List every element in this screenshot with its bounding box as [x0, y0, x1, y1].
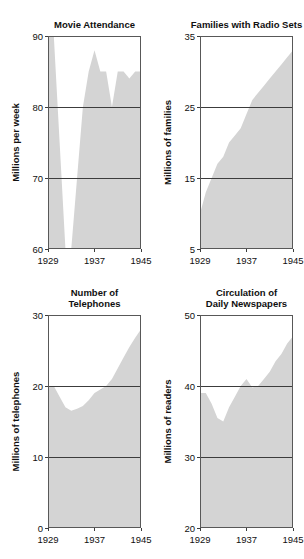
chart-panel-families-with-radio-sets: Families with Radio Sets 515253519291937…: [152, 0, 304, 280]
x-tick-label: 1929: [189, 534, 210, 545]
chart-svg-circulation-of-daily-newspapers: Circulation ofDaily Newspapers 203040501…: [152, 279, 304, 559]
y-axis-title: Millions of telephones: [10, 372, 21, 472]
chart-area-series: [200, 50, 293, 249]
y-tick-label: 15: [184, 173, 195, 184]
y-tick-label: 10: [32, 452, 43, 463]
chart-title-line: Number of: [71, 287, 119, 298]
chart-body-group: 20304050192919371945Millions of readers: [162, 310, 304, 546]
y-axis-title: Millions per week: [10, 102, 21, 181]
chart-title-group: Families with Radio Sets: [191, 19, 302, 30]
chart-title-group: Number ofTelephones: [68, 287, 120, 309]
y-tick-label: 35: [184, 31, 195, 42]
chart-title-line: Daily Newspapers: [206, 298, 287, 309]
chart-title-line: Movie Attendance: [54, 19, 135, 30]
chart-svg-movie-attendance: Movie Attendance 60708090192919371945Mil…: [0, 0, 152, 280]
y-tick-label: 30: [32, 310, 43, 321]
y-tick-label: 80: [32, 102, 43, 113]
chart-title-line: Families with Radio Sets: [191, 19, 302, 30]
chart-title-line: Telephones: [68, 298, 120, 309]
chart-svg-number-of-telephones: Number ofTelephones 0102030192919371945M…: [0, 279, 152, 559]
y-tick-label: 20: [32, 381, 43, 392]
y-tick-label: 60: [32, 244, 43, 255]
chart-area-series: [200, 336, 293, 528]
x-tick-label: 1929: [37, 255, 58, 266]
y-tick-label: 20: [184, 523, 195, 534]
x-tick-label: 1945: [130, 534, 151, 545]
y-tick-label: 50: [184, 310, 195, 321]
chart-body-group: 5152535192919371945Millions of families: [162, 31, 304, 267]
y-tick-label: 40: [184, 381, 195, 392]
chart-area-series: [48, 329, 141, 528]
chart-panel-circulation-of-daily-newspapers: Circulation ofDaily Newspapers 203040501…: [152, 279, 304, 559]
x-tick-label: 1929: [189, 255, 210, 266]
y-axis-title: Millions of readers: [162, 380, 173, 464]
figure-panel-grid: Movie Attendance 60708090192919371945Mil…: [0, 0, 304, 559]
x-tick-label: 1937: [84, 534, 105, 545]
chart-title-group: Movie Attendance: [54, 19, 135, 30]
chart-body-group: 0102030192919371945Millions of telephone…: [10, 310, 152, 546]
chart-panel-movie-attendance: Movie Attendance 60708090192919371945Mil…: [0, 0, 152, 280]
y-axis-title: Millions of families: [162, 100, 173, 185]
y-tick-label: 30: [184, 452, 195, 463]
y-tick-label: 0: [38, 523, 43, 534]
x-tick-label: 1945: [130, 255, 151, 266]
chart-area-series: [48, 36, 141, 249]
chart-title-group: Circulation ofDaily Newspapers: [206, 287, 287, 309]
chart-panel-number-of-telephones: Number ofTelephones 0102030192919371945M…: [0, 279, 152, 559]
y-tick-label: 5: [190, 244, 195, 255]
chart-svg-families-with-radio-sets: Families with Radio Sets 515253519291937…: [152, 0, 304, 280]
chart-title-line: Circulation of: [216, 287, 278, 298]
y-tick-label: 25: [184, 102, 195, 113]
x-tick-label: 1945: [282, 255, 303, 266]
y-tick-label: 70: [32, 173, 43, 184]
x-tick-label: 1929: [37, 534, 58, 545]
x-tick-label: 1937: [236, 534, 257, 545]
chart-body-group: 60708090192919371945Millions per week: [10, 31, 152, 267]
x-tick-label: 1937: [236, 255, 257, 266]
y-tick-label: 90: [32, 31, 43, 42]
x-tick-label: 1945: [282, 534, 303, 545]
x-tick-label: 1937: [84, 255, 105, 266]
